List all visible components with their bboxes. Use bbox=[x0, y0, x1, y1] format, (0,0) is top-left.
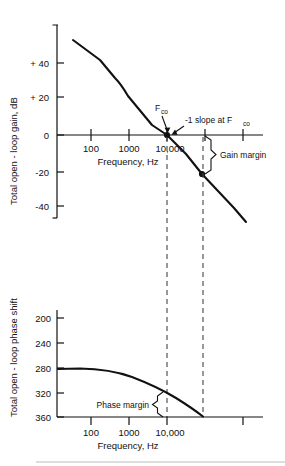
gain-margin-label: Gain margin bbox=[220, 150, 267, 160]
gain-y-tick-label-m20: -20 bbox=[35, 167, 49, 178]
phase-panel: 200 240 280 320 360 Total open - loop ph… bbox=[8, 298, 263, 451]
phase-y-tick-label-360: 360 bbox=[35, 412, 51, 423]
figure-canvas: + 40 + 20 0 -20 -40 Total open - loop ga… bbox=[0, 0, 285, 466]
gain-margin-marker bbox=[199, 171, 205, 177]
gain-margin-brace bbox=[205, 136, 216, 174]
slope-annotation: -1 slope at F co bbox=[172, 115, 251, 135]
gain-y-axis bbox=[53, 25, 59, 218]
gain-curve bbox=[73, 40, 246, 222]
phase-y-tick-label-280: 280 bbox=[35, 363, 51, 374]
slope-subscript: co bbox=[243, 120, 250, 127]
fco-label: F bbox=[155, 103, 160, 113]
gain-y-tick-label-0: 0 bbox=[44, 130, 49, 141]
gain-y-ticks bbox=[53, 63, 65, 218]
phase-y-tick-label-200: 200 bbox=[35, 313, 51, 324]
phase-x-axis-title: Frequency, Hz bbox=[97, 440, 158, 451]
phase-x-tick-label-1000: 1000 bbox=[118, 427, 139, 438]
gain-y-tick-label-40: + 40 bbox=[30, 58, 49, 69]
gain-y-axis-title: Total open - loop gain, dB bbox=[8, 97, 19, 205]
slope-arrow-head bbox=[172, 130, 178, 135]
slope-label: -1 slope at F bbox=[185, 115, 232, 125]
phase-x-tick-label-100: 100 bbox=[83, 427, 99, 438]
phase-x-tick-label-10000: 10,000 bbox=[155, 427, 184, 438]
gain-x-axis-title: Frequency, Hz bbox=[97, 156, 158, 167]
phase-y-ticks bbox=[57, 318, 64, 417]
bode-plot-figure: + 40 + 20 0 -20 -40 Total open - loop ga… bbox=[0, 0, 285, 466]
phase-margin-annotation: Phase margin bbox=[97, 392, 163, 417]
phase-y-axis-title: Total open - loop phase shift bbox=[8, 298, 19, 417]
gain-margin-annotation: Gain margin bbox=[205, 136, 267, 174]
gain-y-tick-label-20: + 20 bbox=[30, 92, 49, 103]
phase-margin-label: Phase margin bbox=[97, 400, 150, 410]
gain-panel: + 40 + 20 0 -20 -40 Total open - loop ga… bbox=[8, 25, 267, 417]
phase-x-ticks bbox=[91, 417, 243, 425]
gain-x-tick-label-100: 100 bbox=[83, 143, 99, 154]
gain-x-tick-label-1000: 1000 bbox=[118, 143, 139, 154]
fco-subscript: co bbox=[161, 108, 168, 115]
gain-y-tick-label-m40: -40 bbox=[35, 201, 49, 212]
phase-y-tick-label-240: 240 bbox=[35, 338, 51, 349]
phase-y-tick-label-320: 320 bbox=[35, 388, 51, 399]
phase-margin-brace bbox=[153, 392, 164, 417]
